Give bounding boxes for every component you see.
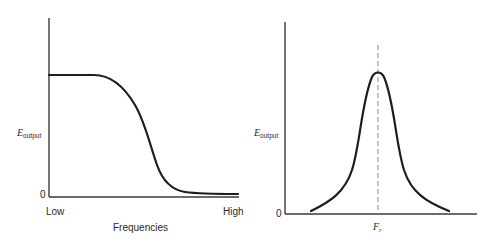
lowpass-x-low-label: Low [46, 206, 65, 217]
resonance-chart: Eoutput 0 Fr [253, 22, 477, 233]
lowpass-y-label: Eoutput [16, 127, 41, 140]
lowpass-x-high-label: High [223, 206, 244, 217]
lowpass-x-title: Frequencies [113, 222, 168, 233]
resonance-y-label: Eoutput [253, 127, 278, 140]
lowpass-curve [49, 75, 238, 194]
resonance-origin-label: 0 [276, 208, 282, 219]
resonance-curve [311, 73, 449, 212]
lowpass-chart: Eoutput 0 Low High Frequencies [16, 18, 244, 233]
frequency-response-diagrams: Eoutput 0 Low High Frequencies Eoutput 0… [0, 0, 497, 244]
resonance-center-label: Fr [372, 221, 382, 233]
lowpass-origin-label: 0 [40, 189, 46, 200]
